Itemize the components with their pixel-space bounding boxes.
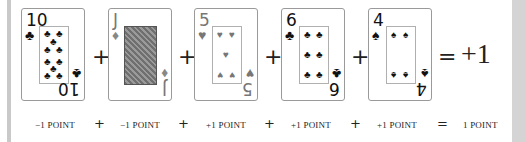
clubs-icon: ♣ — [304, 30, 311, 40]
hearts-icon: ♥ — [246, 66, 254, 80]
spades-icon: ♠ — [403, 30, 408, 40]
plus-operator: + — [178, 116, 189, 131]
spades-icon: ♠ — [391, 30, 396, 40]
hearts-icon: ♥ — [217, 30, 223, 40]
card-rank: J — [113, 12, 118, 29]
spades-icon: ♠ — [421, 66, 428, 80]
clubs-icon: ♣ — [56, 45, 63, 55]
card-pip-area: ♠ ♠ ♠ ♠ — [386, 26, 416, 84]
card-jack-of-diamonds: J ♦ ♦ J — [108, 8, 172, 101]
clubs-icon: ♣ — [44, 45, 51, 55]
clubs-icon: ♣ — [316, 70, 323, 80]
diamonds-icon: ♦ — [161, 66, 168, 80]
clubs-icon: ♣ — [316, 30, 323, 40]
clubs-icon: ♣ — [304, 70, 311, 80]
hearts-icon: ♥ — [229, 70, 235, 80]
card-rank: 5 — [199, 12, 210, 29]
equals-operator: = — [437, 116, 448, 131]
plus-operator: + — [264, 116, 275, 131]
card-points-label: +1 POINT — [377, 120, 417, 130]
plus-operator: + — [94, 116, 105, 131]
card-points-label: −1 POINT — [35, 120, 75, 130]
equals-operator: = — [438, 44, 456, 69]
card-points-label: +1 POINT — [206, 120, 246, 130]
hearts-icon: ♥ — [223, 50, 229, 60]
clubs-icon: ♣ — [25, 29, 34, 43]
hearts-icon: ♥ — [198, 29, 206, 43]
spades-icon: ♠ — [391, 70, 396, 80]
hearts-icon: ♥ — [229, 30, 235, 40]
plus-operator: + — [350, 116, 361, 131]
spades-icon: ♠ — [403, 70, 408, 80]
card-pip-area: ♣ ♣ ♣ ♣ ♣ ♣ — [299, 26, 329, 84]
result-value: +1 — [461, 38, 491, 70]
clubs-icon: ♣ — [72, 66, 81, 80]
hearts-icon: ♥ — [217, 70, 223, 80]
spades-icon: ♠ — [372, 29, 379, 43]
jack-face-illustration — [124, 26, 157, 85]
card-rank: 4 — [416, 80, 427, 97]
clubs-icon: ♣ — [304, 50, 311, 60]
clubs-icon: ♣ — [316, 50, 323, 60]
card-pip-area: ♥ ♥ ♥ ♥ ♥ — [212, 26, 242, 84]
diamonds-icon: ♦ — [112, 29, 119, 43]
clubs-icon: ♣ — [285, 29, 294, 43]
card-five-of-hearts: 5 ♥ ♥ ♥ ♥ ♥ ♥ ♥ 5 — [194, 8, 258, 101]
card-rank: 6 — [329, 80, 340, 97]
card-rank: 10 — [58, 80, 80, 97]
left-frame-border — [7, 0, 11, 142]
card-rank: 5 — [242, 80, 253, 97]
card-rank: 6 — [286, 12, 297, 29]
clubs-icon: ♣ — [44, 71, 51, 81]
card-rank: 4 — [373, 12, 384, 29]
card-points-label: −1 POINT — [120, 120, 160, 130]
plus-operator: + — [351, 44, 369, 69]
result-points-label: 1 POINT — [463, 120, 498, 130]
card-six-of-clubs: 6 ♣ ♣ ♣ ♣ ♣ ♣ ♣ ♣ 6 — [281, 8, 345, 101]
card-points-label: +1 POINT — [291, 120, 331, 130]
right-frame-border — [512, 0, 525, 142]
card-rank: J — [162, 80, 167, 97]
card-ten-of-clubs: 10 ♣ ♣ ♣ ♣ ♣ ♣ ♣ ♣ ♣ ♣ ♣ ♣ 10 — [21, 8, 85, 101]
plus-operator: + — [264, 44, 282, 69]
card-four-of-spades: 4 ♠ ♠ ♠ ♠ ♠ ♠ 4 — [368, 8, 432, 101]
clubs-icon: ♣ — [332, 66, 341, 80]
card-pip-area: ♣ ♣ ♣ ♣ ♣ ♣ ♣ ♣ ♣ ♣ — [39, 26, 69, 84]
